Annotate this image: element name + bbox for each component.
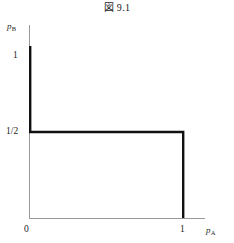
y-axis-label-base: p	[7, 21, 12, 31]
y-tick-label-half: 1/2	[6, 126, 18, 137]
y-axis-label-subscript: B	[12, 25, 16, 32]
x-tick-label-1: 1	[180, 224, 185, 235]
figure-container: 図 9.1 pB pA 1 1/2 0 1	[0, 0, 234, 243]
plot-area	[0, 0, 234, 243]
x-axis-label-subscript: A	[211, 229, 216, 236]
plot-svg	[0, 0, 234, 243]
x-tick-label-0: 0	[24, 224, 29, 235]
y-tick-label-1: 1	[13, 50, 18, 61]
y-axis-label: pB	[7, 21, 16, 32]
step-curve	[30, 46, 183, 218]
x-axis-label: pA	[206, 225, 215, 236]
x-axis-label-base: p	[206, 225, 211, 235]
